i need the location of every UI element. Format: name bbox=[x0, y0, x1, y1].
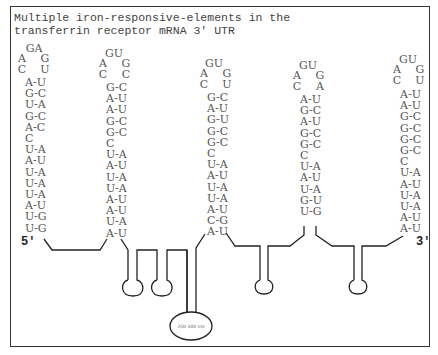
base-pair: A-U bbox=[206, 225, 228, 238]
base-pair: A-U bbox=[399, 222, 421, 235]
linker-1-2 bbox=[44, 239, 107, 250]
base-pair: A-U bbox=[105, 227, 127, 240]
stem-5: GUAGCUA-UA-UG-CG-CG-CG-CCU-AA-UU-AU-AA-U… bbox=[392, 53, 425, 235]
stems-layer: GAAGCUA-UG-CU-AG-CA-CCU-AA-UU-AU-AU-AA-U… bbox=[17, 42, 425, 240]
stem-2: GUAGCCG-CA-UA-UG-CG-CCU-AA-UU-AU-AA-UA-U… bbox=[98, 47, 130, 240]
base-pair: U-G bbox=[300, 205, 322, 218]
backbone-connectors bbox=[44, 226, 403, 340]
base-pair: U-G bbox=[25, 222, 47, 235]
loop-side-left: C bbox=[293, 80, 301, 93]
ire-diagram: GAAGCUA-UG-CU-AG-CA-CCU-AA-UU-AU-AU-AA-U… bbox=[0, 0, 438, 355]
insert-loop-label: 250-300 nts bbox=[177, 324, 205, 329]
loop-side-right: C bbox=[122, 68, 130, 81]
loop-side-right: U bbox=[222, 78, 231, 91]
loop-top: GU bbox=[299, 59, 317, 72]
loop-side-left: C bbox=[200, 78, 208, 91]
stem-4: GUAGCAA-UG-CA-UG-CG-CCU-AA-UU-AG-UU-G bbox=[292, 59, 325, 218]
loop-side-left: C bbox=[393, 74, 401, 87]
loop-side-left: C bbox=[18, 63, 26, 76]
three-prime-label: 3' bbox=[416, 235, 430, 249]
linker-3-4a bbox=[226, 233, 260, 280]
stem-1: GAAGCUA-UG-CU-AG-CA-CCU-AA-UU-AU-AU-AA-U… bbox=[17, 42, 50, 235]
stem-3: GUAGCUG-CA-UG-UG-CG-CCU-AA-UU-AU-AA-UC-G… bbox=[199, 57, 232, 238]
hairpin-d bbox=[349, 236, 403, 294]
loop-side-right: U bbox=[415, 74, 424, 87]
loop-side-right: U bbox=[40, 63, 49, 76]
insert-stem-right bbox=[196, 234, 205, 313]
loop-top: GU bbox=[105, 47, 123, 60]
loop-side-left: C bbox=[99, 68, 107, 81]
linker-4-5a bbox=[316, 226, 354, 280]
loop-top: GU bbox=[399, 53, 417, 66]
loop-side-right: A bbox=[315, 80, 325, 93]
linker-2-down bbox=[121, 239, 128, 280]
five-prime-label: 5' bbox=[21, 235, 35, 249]
hairpin-c bbox=[255, 226, 304, 294]
